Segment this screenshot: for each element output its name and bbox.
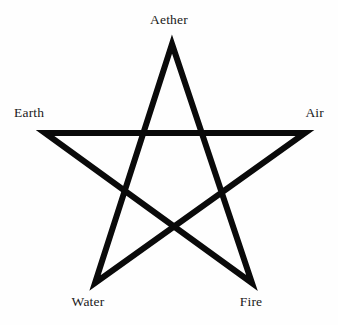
vertex-label-water: Water <box>62 295 114 309</box>
pentagram-star-graphic <box>0 0 338 325</box>
vertex-label-fire: Fire <box>228 295 274 309</box>
vertex-label-aether: Aether <box>0 13 338 27</box>
vertex-label-earth: Earth <box>14 106 44 120</box>
pentagram-diagram: Aether Earth Air Water Fire <box>0 0 338 325</box>
vertex-label-air: Air <box>305 106 324 120</box>
